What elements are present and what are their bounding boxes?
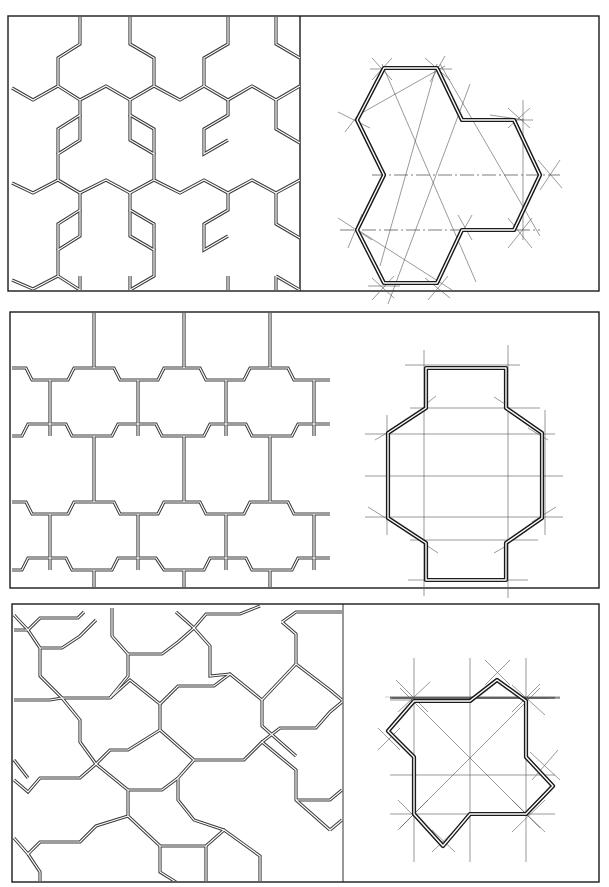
- panel-2-tessellation: [12, 313, 330, 588]
- panel-1-frame: [8, 16, 599, 291]
- tile-plates: [0, 0, 609, 887]
- panel-2: [10, 312, 599, 598]
- panel-3-frame: [12, 604, 599, 882]
- panel-2-construction: [365, 345, 563, 598]
- panel-2-frame: [10, 312, 599, 588]
- panel-1-tessellation: [12, 17, 300, 290]
- panel-3: [12, 604, 599, 882]
- panel-1: [8, 16, 599, 304]
- panel-3-construction: [378, 658, 560, 862]
- panel-1-construction: [338, 56, 562, 304]
- panel-3-tessellation: [14, 606, 342, 882]
